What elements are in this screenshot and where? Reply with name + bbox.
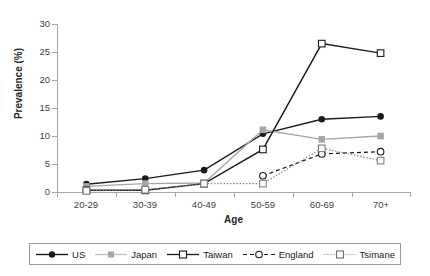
legend-marker-tsimane-icon <box>323 249 357 260</box>
legend-label-us: US <box>72 249 85 260</box>
data-point <box>201 167 208 174</box>
series-us <box>83 113 384 187</box>
legend-item-england: England <box>242 249 314 260</box>
series-england <box>260 148 384 179</box>
series-line-japan <box>86 130 380 187</box>
legend-marker-taiwan-icon <box>166 249 200 260</box>
legend-label-japan: Japan <box>131 249 157 260</box>
data-point <box>318 116 325 123</box>
legend-marker-england-icon <box>242 249 276 260</box>
data-point <box>260 127 267 134</box>
data-point <box>142 186 149 193</box>
prevalence-by-age-chart: 30 25 20 15 10 5 0 Prevalence (%) 20-29 … <box>0 0 430 276</box>
data-point <box>318 136 325 143</box>
data-point <box>83 188 90 195</box>
legend-label-taiwan: Taiwan <box>203 249 233 260</box>
legend-label-england: England <box>279 249 314 260</box>
legend-item-tsimane: Tsimane <box>323 249 395 260</box>
data-point <box>377 50 384 57</box>
legend-marker-japan-icon <box>94 249 128 260</box>
data-point <box>377 157 384 164</box>
legend-item-japan: Japan <box>94 249 157 260</box>
data-point <box>318 145 325 152</box>
data-point <box>377 148 384 155</box>
series-taiwan <box>83 40 384 193</box>
data-point <box>201 180 208 187</box>
data-point <box>260 146 267 153</box>
legend-item-taiwan: Taiwan <box>166 249 233 260</box>
data-point <box>318 40 325 47</box>
data-point <box>260 180 267 187</box>
legend-marker-us-icon <box>35 249 69 260</box>
chart-legend: US Japan Taiwan England Tsimane <box>29 243 401 265</box>
series-line-taiwan <box>86 44 380 191</box>
legend-label-tsimane: Tsimane <box>360 249 395 260</box>
data-point <box>142 180 149 187</box>
series-line-us <box>86 116 380 184</box>
legend-item-us: US <box>35 249 85 260</box>
data-point <box>260 172 267 179</box>
data-point <box>377 113 384 120</box>
series-layer <box>0 0 430 276</box>
data-point <box>377 133 384 140</box>
